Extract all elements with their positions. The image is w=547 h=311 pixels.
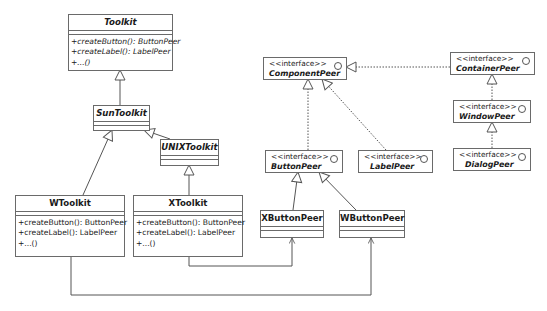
interface-buttonpeer[interactable]: <<interface>> ButtonPeer	[265, 150, 343, 173]
operations-compartment	[261, 231, 323, 235]
operations-compartment: +createButton(): ButtonPeer +createLabel…	[134, 216, 242, 251]
class-name: Toolkit	[69, 15, 172, 31]
interface-dialogpeer[interactable]: <<interface>> DialogPeer	[453, 148, 531, 171]
interface-lollipop-icon	[518, 105, 526, 113]
interface-windowpeer[interactable]: <<interface>> WindowPeer	[453, 100, 531, 123]
operations-compartment: +createButton(): ButtonPeer +createLabel…	[16, 216, 124, 251]
operation: +...()	[18, 239, 122, 249]
class-toolkit[interactable]: Toolkit +createButton(): ButtonPeer +cre…	[68, 14, 173, 71]
class-wbuttonpeer[interactable]: WButtonPeer	[339, 210, 405, 238]
interface-name: ComponentPeer	[269, 69, 342, 79]
class-name: SunToolkit	[94, 106, 149, 122]
operation: +createButton(): ButtonPeer	[18, 218, 122, 228]
interface-name: ButtonPeer	[271, 162, 338, 172]
operation: +...()	[71, 58, 170, 68]
class-name: WButtonPeer	[340, 211, 404, 227]
stereotype-label: <<interface>>	[364, 152, 428, 162]
class-name: XButtonPeer	[261, 211, 323, 227]
interface-lollipop-icon	[330, 155, 338, 163]
operations-compartment: +createButton(): ButtonPeer +createLabel…	[69, 35, 172, 70]
operation: +createLabel(): LabelPeer	[18, 228, 122, 238]
interface-name: LabelPeer	[364, 162, 428, 172]
class-wtoolkit[interactable]: WToolkit +createButton(): ButtonPeer +cr…	[15, 195, 125, 257]
interface-name: WindowPeer	[459, 112, 526, 122]
operation: +createButton(): ButtonPeer	[136, 218, 240, 228]
edge-labelpeer-componentpeer	[322, 79, 386, 150]
class-name: UNIXToolkit	[161, 140, 218, 156]
interface-lollipop-icon	[420, 155, 428, 163]
interface-lollipop-icon	[518, 153, 526, 161]
class-xtoolkit[interactable]: XToolkit +createButton(): ButtonPeer +cr…	[133, 195, 243, 257]
operation: +createLabel(): LabelPeer	[71, 47, 170, 57]
operation: +createLabel(): LabelPeer	[136, 228, 240, 238]
stereotype-label: <<interface>>	[459, 150, 526, 160]
interface-lollipop-icon	[522, 57, 530, 65]
class-name: WToolkit	[16, 196, 124, 212]
edge-wtoolkit-suntoolkit	[83, 130, 112, 195]
interface-name: ContainerPeer	[456, 64, 530, 74]
class-unixtoolkit[interactable]: UNIXToolkit	[160, 139, 219, 166]
edge-unixtoolkit-suntoolkit	[144, 130, 170, 139]
operation: +...()	[136, 239, 240, 249]
interface-containerpeer[interactable]: <<interface>> ContainerPeer	[450, 52, 535, 75]
class-suntoolkit[interactable]: SunToolkit	[93, 105, 150, 131]
operations-compartment	[340, 231, 404, 235]
stereotype-label: <<interface>>	[271, 152, 338, 162]
interface-lollipop-icon	[334, 62, 342, 70]
stereotype-label: <<interface>>	[459, 102, 526, 112]
edge-wbuttonpeer-buttonpeer	[319, 172, 356, 210]
edge-xbuttonpeer-buttonpeer	[293, 172, 298, 210]
interface-labelpeer[interactable]: <<interface>> LabelPeer	[358, 150, 433, 173]
class-xbuttonpeer[interactable]: XButtonPeer	[260, 210, 324, 238]
stereotype-label: <<interface>>	[269, 59, 342, 69]
operation: +createButton(): ButtonPeer	[71, 37, 170, 47]
interface-componentpeer[interactable]: <<interface>> ComponentPeer	[263, 57, 347, 80]
operations-compartment	[161, 160, 218, 164]
operations-compartment	[94, 126, 149, 130]
stereotype-label: <<interface>>	[456, 54, 530, 64]
class-name: XToolkit	[134, 196, 242, 212]
interface-name: DialogPeer	[459, 160, 526, 170]
